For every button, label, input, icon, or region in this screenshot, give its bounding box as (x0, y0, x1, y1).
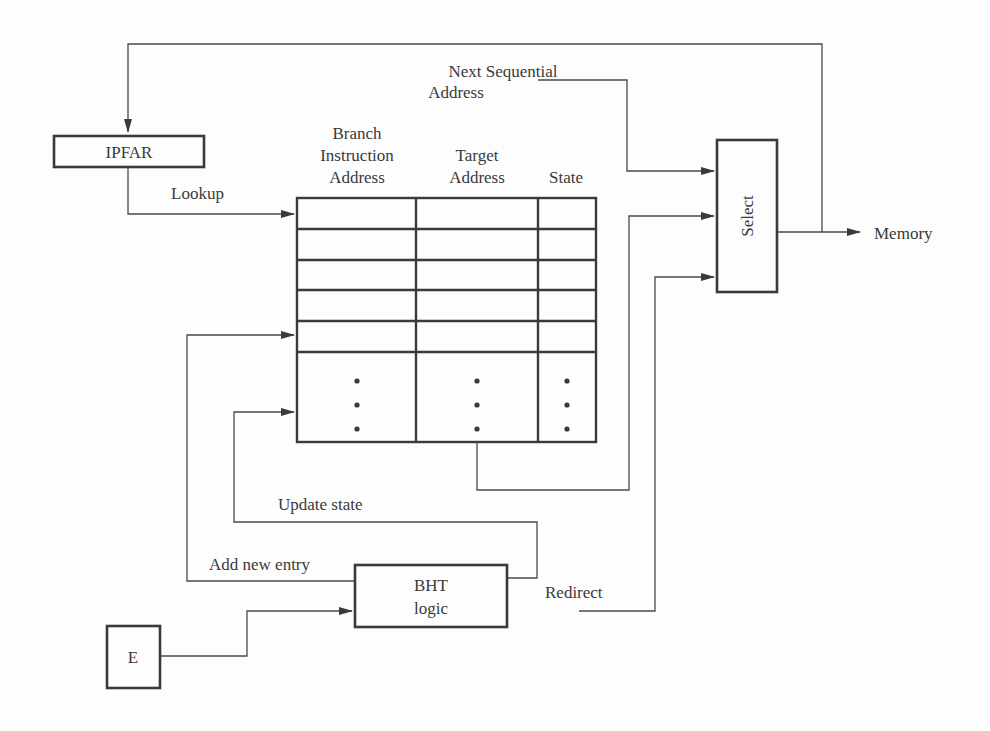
bht-table (297, 198, 596, 442)
next-seq-label-1: Next Sequential (448, 62, 557, 81)
add-new-entry-label: Add new entry (209, 555, 311, 574)
col-header-target-2: Address (449, 168, 505, 187)
redirect-label: Redirect (545, 583, 603, 602)
col-header-branch-1: Branch (332, 124, 382, 143)
col-header-branch-2: Instruction (320, 146, 394, 165)
bht-diagram: IPFAR Lookup Next Sequential Address Bra… (0, 0, 990, 731)
col-header-state: State (549, 168, 583, 187)
col-header-branch-3: Address (329, 168, 385, 187)
e-to-bht-arrow (160, 611, 352, 656)
e-label: E (128, 648, 138, 667)
redirect-arrow (579, 277, 714, 611)
select-label: Select (738, 195, 757, 237)
add-new-entry-arrow (187, 335, 354, 581)
update-state-label: Update state (278, 495, 363, 514)
bht-logic-label-2: logic (414, 599, 448, 618)
memory-label: Memory (874, 224, 933, 243)
diagram-svg: IPFAR Lookup Next Sequential Address Bra… (0, 0, 990, 731)
col-header-target-1: Target (456, 146, 499, 165)
next-seq-arrow (538, 80, 714, 171)
next-seq-label-2: Address (428, 83, 484, 102)
bht-logic-label-1: BHT (414, 576, 449, 595)
ipfar-label: IPFAR (106, 143, 154, 162)
lookup-label: Lookup (171, 184, 224, 203)
